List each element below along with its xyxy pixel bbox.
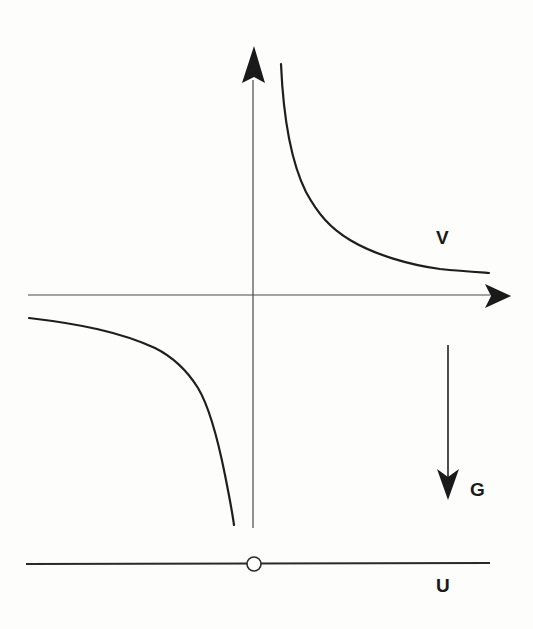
horizontal-axis: [28, 284, 511, 308]
potential-curve-left-branch: [29, 318, 234, 525]
force-arrow-g: [437, 345, 459, 500]
label-v: V: [436, 228, 449, 247]
arrow-up-icon: [242, 46, 265, 83]
vertical-axis: [242, 46, 265, 528]
label-g: G: [470, 480, 485, 499]
potential-curve-right-branch: [281, 64, 489, 273]
label-u: U: [436, 576, 450, 595]
baseline-u: [26, 557, 490, 571]
diagram-canvas: [0, 0, 533, 629]
open-circle-marker: [247, 557, 261, 571]
arrow-right-icon: [485, 284, 511, 308]
